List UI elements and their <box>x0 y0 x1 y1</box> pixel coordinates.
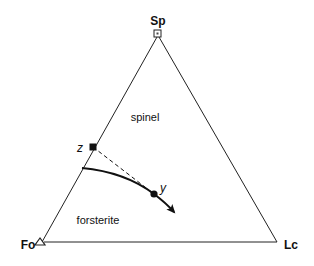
triangle-frame <box>42 37 277 242</box>
point-y-marker <box>150 190 157 197</box>
edge-sp-fo <box>42 37 157 242</box>
field-label-forsterite: forsterite <box>77 214 120 226</box>
sp-vertex-inner <box>157 33 159 35</box>
vertex-label-lc: Lc <box>284 238 298 252</box>
vertex-label-fo: Fo <box>21 238 36 252</box>
edge-sp-lc <box>159 37 277 242</box>
vertex-label-sp: Sp <box>150 14 165 28</box>
point-z-marker <box>90 144 97 151</box>
point-label-y: y <box>159 181 167 195</box>
field-label-spinel: spinel <box>131 111 160 123</box>
ternary-diagram: Sp Fo Lc spinel forsterite z y <box>0 0 314 266</box>
point-label-z: z <box>76 141 83 155</box>
